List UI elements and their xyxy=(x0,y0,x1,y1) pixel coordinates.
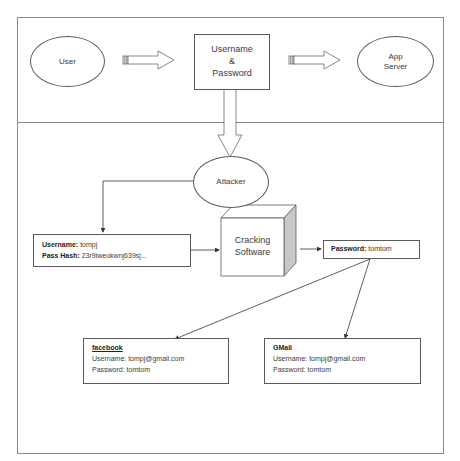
user-node: User xyxy=(30,36,105,87)
facebook-password: Password: tomtom xyxy=(92,365,220,376)
gmail-title: GMail xyxy=(273,343,412,354)
server-line-1: App xyxy=(384,52,408,62)
gmail-account-box: GMail Username: tompj@gmail.com Password… xyxy=(264,338,421,384)
cracking-software-label: Cracking Software xyxy=(221,218,284,276)
attacker-label: Attacker xyxy=(216,177,245,187)
block-arrow-credentials-to-attacker xyxy=(218,89,242,157)
cracking-line-2: Software xyxy=(235,247,271,259)
stolen-username-value: tompj xyxy=(80,241,97,248)
facebook-account-box: facebook Username: tompj@gmail.com Passw… xyxy=(83,338,229,384)
cracked-password-label: Password: xyxy=(331,245,366,252)
stolen-username-row: Username: tompj xyxy=(42,240,182,251)
block-arrow-credentials-to-server xyxy=(289,51,340,69)
credentials-line-2: & xyxy=(229,56,235,68)
stolen-hash-label: Pass Hash: xyxy=(42,252,80,259)
cracked-password-value: tomtom xyxy=(368,245,391,252)
credentials-node: Username & Password xyxy=(194,34,270,90)
facebook-title: facebook xyxy=(92,343,220,354)
user-label: User xyxy=(59,57,76,67)
server-line-2: Server xyxy=(384,62,408,72)
attacker-node: Attacker xyxy=(193,156,269,208)
credentials-line-1: Username xyxy=(211,44,253,56)
gmail-password: Password: tomtom xyxy=(273,365,412,376)
stolen-record-box: Username: tompj Pass Hash: 23r9iweokwnj6… xyxy=(33,234,191,267)
facebook-username: Username: tompj@gmail.com xyxy=(92,354,220,365)
stolen-hash-row: Pass Hash: 23r9iweokwnj639sj... xyxy=(42,251,182,262)
stolen-hash-value: 23r9iweokwnj639sj... xyxy=(82,252,147,259)
stolen-username-label: Username: xyxy=(42,241,78,248)
gmail-username: Username: tompj@gmail.com xyxy=(273,354,412,365)
cracked-password-box: Password: tomtom xyxy=(323,240,420,259)
cracking-line-1: Cracking xyxy=(235,235,271,247)
app-server-node: App Server xyxy=(357,36,434,87)
block-arrow-user-to-credentials xyxy=(123,51,174,69)
credentials-line-3: Password xyxy=(212,68,252,80)
